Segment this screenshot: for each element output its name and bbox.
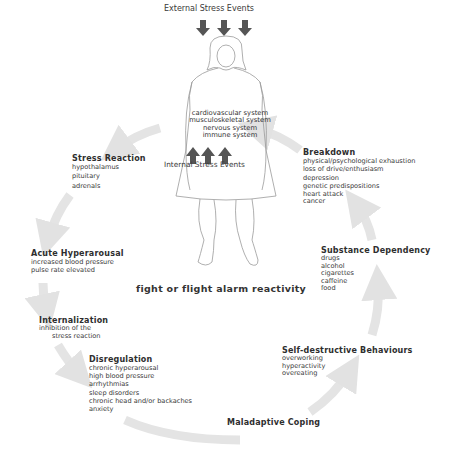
center-label: fight or flight alarm reactivity: [136, 283, 306, 294]
stage-item: chronic hyperarousal: [89, 364, 192, 372]
cycle-arrow-1: [115, 128, 160, 150]
stage-item: hypothalamus: [72, 163, 146, 172]
stage-title: Breakdown: [303, 148, 415, 157]
stage-disregulation: Disregulation chronic hyperarousal high …: [89, 355, 192, 413]
cycle-arrow-8: [356, 204, 372, 240]
stage-item: chronic head and/or backaches: [89, 397, 192, 405]
external-stress-label: External Stress Events: [164, 4, 254, 13]
internal-stress-label: Internal Stress Events: [164, 160, 245, 169]
stage-title: Maladaptive Coping: [227, 418, 320, 427]
stage-item: overeating: [282, 370, 413, 378]
cycle-arrow-3: [43, 283, 46, 312]
stage-item: sleep disorders: [89, 389, 192, 397]
body-system: immune system: [160, 132, 300, 139]
cycle-diagram-graphics: [0, 0, 453, 451]
stage-item: food: [321, 285, 431, 293]
stage-stress-reaction: Stress Reaction hypothalamus pituitary a…: [72, 154, 146, 191]
stage-item: loss of drive/enthusiasm: [303, 165, 415, 173]
stage-item: physical/psychological exhaustion: [303, 157, 415, 165]
stage-acute-hyperarousal: Acute Hyperarousal increased blood press…: [31, 249, 124, 275]
stage-item: pituitary: [72, 172, 146, 181]
cycle-arrow-5: [125, 420, 240, 440]
stage-self-destructive-behaviours: Self-destructive Behaviours overworking …: [282, 346, 413, 378]
cycle-arrow-4: [58, 345, 80, 375]
stage-item: cancer: [303, 198, 415, 205]
external-stress-arrows: [196, 20, 252, 36]
stage-item: depression: [303, 174, 415, 182]
stage-title: Stress Reaction: [72, 154, 146, 163]
stage-internalization: Internalization inhibition of the stress…: [39, 316, 108, 340]
stage-item: stress reaction: [39, 333, 108, 341]
body-systems-list: cardiovascular system musculoskeletal sy…: [160, 110, 300, 140]
stage-title: Acute Hyperarousal: [31, 249, 124, 258]
cycle-arrow-2: [48, 195, 70, 240]
stage-item: adrenals: [72, 182, 146, 191]
stage-item: pulse rate elevated: [31, 266, 124, 274]
stage-item: increased blood pressure: [31, 258, 124, 266]
stage-maladaptive-coping: Maladaptive Coping: [227, 418, 320, 427]
stage-title: Disregulation: [89, 355, 192, 364]
stage-breakdown: Breakdown physical/psychological exhaust…: [303, 148, 415, 205]
stage-item: caffeine: [321, 278, 431, 286]
stage-item: arrhythmias: [89, 380, 192, 388]
stage-item: high blood pressure: [89, 372, 192, 380]
stage-substance-dependency: Substance Dependency drugs alcohol cigar…: [321, 246, 431, 293]
stage-item: anxiety: [89, 405, 192, 413]
